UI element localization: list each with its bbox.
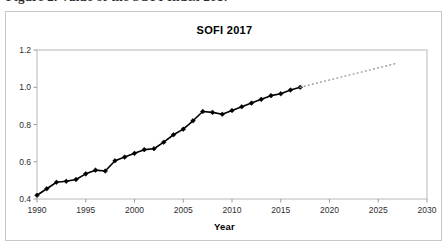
x-tick-labels: 199019952000200520102015202020252030 [28, 205, 437, 215]
chart-frame: SOFI 2017 0.40.60.81.01.2 19901995200020… [5, 11, 442, 241]
y-tick-label: 0.6 [19, 157, 31, 167]
x-tick-label: 2000 [125, 205, 144, 215]
data-point-marker [142, 147, 147, 152]
data-point-marker [259, 97, 264, 102]
data-point-marker [220, 112, 225, 117]
x-tick-label: 2020 [320, 205, 339, 215]
y-tick-label: 0.8 [19, 120, 31, 130]
data-point-marker [288, 88, 293, 93]
data-point-marker [269, 93, 274, 98]
series-line-1 [300, 63, 398, 87]
x-tick-label: 2010 [223, 205, 242, 215]
figure-root: Figure 2. Value of the SOFI Index 2017 S… [0, 0, 448, 249]
x-tick-label: 2015 [271, 205, 290, 215]
x-tick-label: 2030 [418, 205, 437, 215]
y-tick-labels: 0.40.60.81.01.2 [19, 45, 31, 204]
data-series-group [35, 63, 398, 198]
x-tick-label: 1995 [76, 205, 95, 215]
figure-caption-text: Figure 2. Value of the SOFI Index 2017 [6, 0, 230, 5]
data-point-marker [278, 91, 283, 96]
chart-plot-area: 0.40.60.81.01.2 199019952000200520102015… [6, 12, 443, 242]
data-point-marker [122, 155, 127, 160]
data-point-marker [64, 179, 69, 184]
y-tick-label: 1.2 [19, 45, 31, 55]
plot-box-outline [34, 50, 428, 203]
y-tick-label: 1.0 [19, 82, 31, 92]
data-point-marker [210, 110, 215, 115]
data-point-marker [230, 108, 235, 113]
data-point-marker [132, 151, 137, 156]
y-tick-label: 0.4 [19, 194, 31, 204]
data-point-marker [93, 168, 98, 173]
figure-caption-sliver: Figure 2. Value of the SOFI Index 2017 [0, 0, 448, 10]
data-point-marker [249, 101, 254, 106]
x-tick-label: 2025 [369, 205, 388, 215]
data-point-marker [239, 105, 244, 110]
x-axis-title: Year [6, 221, 443, 232]
x-tick-label: 1990 [28, 205, 47, 215]
x-tick-label: 2005 [174, 205, 193, 215]
